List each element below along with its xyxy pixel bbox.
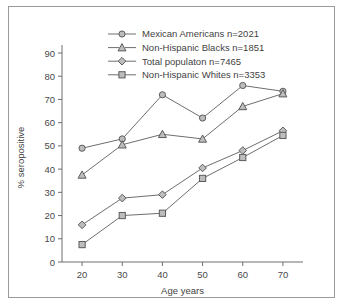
y-axis-title: % seropositive bbox=[15, 127, 26, 189]
y-tick-label: 80 bbox=[44, 71, 55, 82]
x-tick-label: 70 bbox=[278, 269, 289, 280]
data-point-s2-i0 bbox=[78, 221, 86, 229]
series-line-2 bbox=[82, 131, 283, 225]
legend-label-1: Non-Hispanic Blacks n=1851 bbox=[142, 42, 264, 53]
data-point-s1-i2 bbox=[158, 130, 166, 137]
y-tick-label: 70 bbox=[44, 94, 55, 105]
y-tick-label: 30 bbox=[44, 187, 55, 198]
series-line-1 bbox=[82, 94, 283, 175]
y-tick-label: 0 bbox=[50, 257, 55, 268]
data-point-s3-i4 bbox=[240, 154, 246, 160]
x-tick-label: 50 bbox=[197, 269, 208, 280]
y-tick-label: 50 bbox=[44, 140, 55, 151]
data-point-s2-i4 bbox=[239, 147, 247, 155]
x-axis-title: Age years bbox=[161, 285, 204, 296]
data-point-s2-i1 bbox=[118, 194, 126, 202]
data-point-s0-i3 bbox=[199, 115, 205, 121]
data-point-s3-i1 bbox=[119, 212, 125, 218]
x-tick-label: 20 bbox=[77, 269, 88, 280]
x-tick-label: 30 bbox=[117, 269, 128, 280]
data-point-s3-i3 bbox=[199, 175, 205, 181]
legend-label-2: Total populaton n=7465 bbox=[142, 56, 241, 67]
y-tick-label: 10 bbox=[44, 233, 55, 244]
data-point-s2-i3 bbox=[199, 164, 207, 172]
series-line-0 bbox=[82, 86, 283, 149]
legend-marker-circle bbox=[119, 31, 125, 37]
data-point-s0-i0 bbox=[79, 145, 85, 151]
y-tick-label: 40 bbox=[44, 164, 55, 175]
legend-label-3: Non-Hispanic Whites n=3353 bbox=[142, 69, 265, 80]
data-point-s0-i4 bbox=[240, 82, 246, 88]
y-tick-label: 90 bbox=[44, 48, 55, 59]
data-point-s3-i5 bbox=[280, 132, 286, 138]
data-point-s0-i2 bbox=[159, 92, 165, 98]
x-tick-label: 60 bbox=[237, 269, 248, 280]
data-point-s1-i4 bbox=[239, 102, 247, 109]
data-point-s2-i2 bbox=[159, 191, 167, 199]
data-point-s3-i0 bbox=[79, 241, 85, 247]
legend-marker-triangle bbox=[118, 44, 126, 51]
legend-marker-diamond bbox=[118, 57, 126, 65]
y-tick-label: 20 bbox=[44, 210, 55, 221]
legend-label-0: Mexican Americans n=2021 bbox=[142, 28, 259, 39]
chart-figure: 0102030405060708090% seropositive2030405… bbox=[0, 0, 344, 306]
data-point-s1-i0 bbox=[78, 171, 86, 178]
x-tick-label: 40 bbox=[157, 269, 168, 280]
legend-marker-square bbox=[119, 72, 125, 78]
data-point-s3-i2 bbox=[159, 210, 165, 216]
seroprevalence-line-chart: 0102030405060708090% seropositive2030405… bbox=[0, 0, 344, 306]
y-tick-label: 60 bbox=[44, 117, 55, 128]
